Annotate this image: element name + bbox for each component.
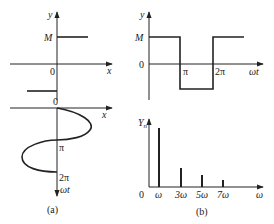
y-axis-label: Yn xyxy=(138,117,148,130)
tick-3omega: 3ω xyxy=(174,189,187,200)
caption-b: (b) xyxy=(196,206,208,218)
square-wave xyxy=(149,37,244,89)
level-m-label: M xyxy=(43,32,53,43)
origin-label: 0 xyxy=(139,189,144,200)
tick-5omega: 5ω xyxy=(196,189,208,200)
origin-label: 0 xyxy=(50,66,55,77)
tick-omega: ω xyxy=(155,189,162,200)
y-axis-label: y xyxy=(139,9,145,20)
level-m-label: M xyxy=(134,32,144,43)
frequency-axis-label: ω xyxy=(256,189,263,200)
caption-a: (a) xyxy=(47,204,58,216)
x-axis-label: x xyxy=(106,65,112,76)
origin-label: 0 xyxy=(53,96,58,107)
figure-canvas: y M 0 x 0 x π 2π ωt (a) y M 0 π 2π ωt Yn… xyxy=(0,0,274,224)
tick-pi-label: π xyxy=(59,142,64,153)
panel-b-square-wave: y M 0 π 2π ωt xyxy=(134,9,263,100)
panel-a-characteristic: y M 0 x xyxy=(10,9,112,100)
origin-label: 0 xyxy=(139,59,144,70)
time-axis-label: ωt xyxy=(249,66,259,77)
y-axis-label: y xyxy=(47,9,53,20)
tick-pi-label: π xyxy=(183,66,188,77)
tick-2pi-label: 2π xyxy=(215,66,225,77)
panel-b-spectrum: Yn 0 ω 3ω 5ω 7ω ω (b) xyxy=(138,117,263,218)
tick-7omega: 7ω xyxy=(217,189,229,200)
panel-a-input-sine: 0 x π 2π ωt (a) xyxy=(10,96,112,216)
tick-2pi-label: 2π xyxy=(59,172,69,183)
x-axis-label: x xyxy=(101,109,107,120)
time-axis-label: ωt xyxy=(60,184,70,195)
